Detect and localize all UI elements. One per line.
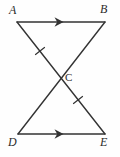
vertex-label-b: B: [100, 3, 107, 15]
geometry-figure: A B C D E: [0, 0, 120, 157]
vertex-label-a: A: [9, 4, 16, 16]
vertex-label-c: C: [65, 71, 72, 83]
vertex-label-d: D: [8, 136, 17, 148]
tick-mark-on-ce-icon: [74, 97, 83, 104]
vertex-label-e: E: [100, 136, 107, 148]
geometry-canvas: [0, 0, 120, 157]
tick-mark-on-ac-icon: [36, 48, 45, 55]
